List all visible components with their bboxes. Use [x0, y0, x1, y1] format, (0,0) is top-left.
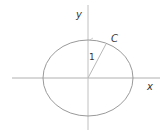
y-axis-label: y [75, 9, 83, 20]
x-axis-label: x [146, 81, 153, 92]
radius-label: 1 [89, 52, 95, 62]
curve-label: C [111, 33, 118, 44]
diagram-canvas: y C 1 x [0, 0, 166, 133]
